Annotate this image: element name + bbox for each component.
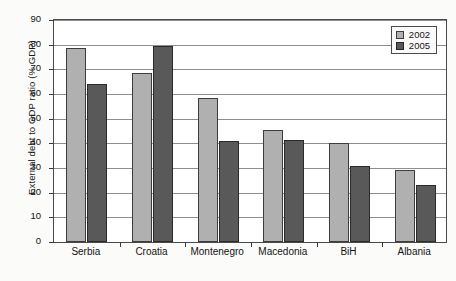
bar-serbia-2005 <box>87 84 107 242</box>
bar-bih-2002 <box>329 143 349 242</box>
y-axis-tick-label: 40 <box>1 137 41 147</box>
bar-series-container <box>54 20 446 242</box>
y-axis-tick-label: 30 <box>1 162 41 172</box>
y-axis-tick-label: 60 <box>1 88 41 98</box>
legend-swatch-icon-2002 <box>396 31 404 39</box>
bar-albania-2002 <box>395 170 415 242</box>
legend-item-2002: 2002 <box>396 30 430 39</box>
bar-group <box>66 48 107 242</box>
y-axis-tick-label: 50 <box>1 113 41 123</box>
y-axis-tick <box>49 242 54 243</box>
bar-croatia-2005 <box>153 46 173 242</box>
y-axis-tick-label: 70 <box>1 63 41 73</box>
x-axis-tick-labels: SerbiaCroatiaMontenegroMacedoniaBiHAlban… <box>53 246 447 264</box>
y-axis-tick-label: 0 <box>1 236 41 246</box>
y-axis-tick-label: 80 <box>1 39 41 49</box>
legend-label-2005: 2005 <box>409 41 430 50</box>
bar-group <box>198 98 239 242</box>
bar-montenegro-2005 <box>219 141 239 242</box>
y-axis-tick-labels: 0102030405060708090 <box>0 19 47 243</box>
x-axis-label-macedonia: Macedonia <box>258 246 307 257</box>
plot-area: 2002 2005 <box>53 19 447 243</box>
bar-group <box>263 130 304 242</box>
y-axis-tick-label: 10 <box>1 211 41 221</box>
legend-swatch-icon-2005 <box>396 42 404 50</box>
chart-legend: 2002 2005 <box>391 26 437 54</box>
x-axis-label-montenegro: Montenegro <box>190 246 243 257</box>
y-axis-tick-label: 20 <box>1 187 41 197</box>
x-axis-label-albania: Albania <box>397 246 430 257</box>
legend-label-2002: 2002 <box>409 30 430 39</box>
x-axis-label-serbia: Serbia <box>71 246 100 257</box>
bar-macedonia-2005 <box>284 140 304 242</box>
x-axis-label-croatia: Croatia <box>135 246 167 257</box>
bar-serbia-2002 <box>66 48 86 242</box>
bar-bih-2005 <box>350 166 370 242</box>
y-axis-tick-label: 90 <box>1 14 41 24</box>
bar-group <box>132 46 173 242</box>
x-axis-label-bih: BiH <box>340 246 356 257</box>
bar-croatia-2002 <box>132 73 152 242</box>
bar-montenegro-2002 <box>198 98 218 242</box>
bar-albania-2005 <box>416 185 436 242</box>
legend-item-2005: 2005 <box>396 41 430 50</box>
bar-macedonia-2002 <box>263 130 283 242</box>
bar-group <box>329 143 370 242</box>
bar-group <box>395 170 436 242</box>
chart-figure: External debt to GDP ratio (% GDP) 01020… <box>0 0 456 281</box>
